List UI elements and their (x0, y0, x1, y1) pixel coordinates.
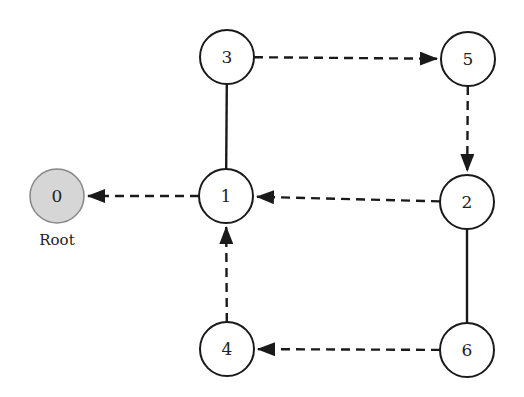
node-6: 6 (440, 323, 494, 377)
edge-6-to-4 (258, 349, 440, 350)
node-label: 3 (222, 47, 233, 67)
edge-4-to-1 (226, 227, 227, 322)
root-node: 0Root (30, 169, 84, 249)
node-1: 1 (199, 169, 253, 223)
node-5: 5 (441, 32, 495, 86)
tree-diagram: 0Root123456 (0, 0, 524, 397)
node-3: 3 (200, 30, 254, 84)
node-label: 2 (462, 192, 473, 212)
edge-5-to-2 (467, 86, 468, 171)
node-label: 0 (52, 186, 63, 206)
root-caption: Root (39, 231, 74, 249)
node-label: 5 (463, 49, 474, 69)
node-label: 6 (462, 340, 473, 360)
edges-layer (88, 57, 468, 350)
edge-3-to-1 (226, 84, 227, 169)
edge-2-to-1 (257, 197, 440, 202)
node-4: 4 (200, 322, 254, 376)
edge-3-to-5 (254, 57, 437, 59)
node-2: 2 (440, 175, 494, 229)
node-label: 1 (221, 186, 232, 206)
nodes-layer: 0Root123456 (30, 30, 495, 377)
node-label: 4 (222, 339, 233, 359)
